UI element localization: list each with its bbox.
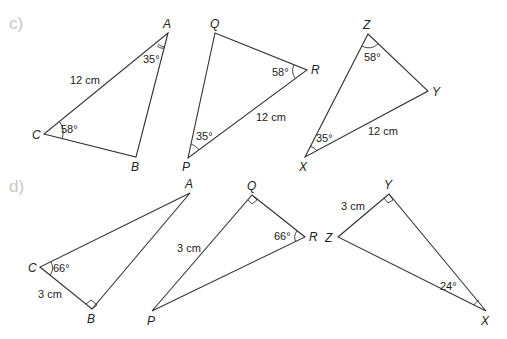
side-label-d-zy: 3 cm: [341, 200, 365, 212]
triangle-c-abc: A B C 35° 58° 12 cm: [32, 17, 171, 174]
vertex-label-d-p: P: [147, 314, 155, 328]
angle-label-c-r: 58°: [272, 66, 289, 78]
vertex-label-d-r: R: [309, 230, 318, 244]
vertex-label-d-y: Y: [384, 178, 393, 192]
angle-label-c-x: 35°: [316, 132, 333, 144]
angle-arc-c-a-2: [158, 44, 164, 47]
angle-label-d-x: 24°: [440, 280, 457, 292]
side-label-d-pq: 3 cm: [177, 242, 201, 254]
vertex-label-d-b: B: [87, 312, 95, 326]
side-label-c-ac: 12 cm: [70, 74, 100, 86]
triangle-d-abc-shape: [40, 193, 190, 309]
vertex-label-c-p: P: [182, 160, 190, 174]
vertex-label-d-x: X: [480, 314, 490, 328]
part-label-d: d): [9, 177, 24, 196]
vertex-label-d-a: A: [184, 177, 193, 191]
side-label-d-cb: 3 cm: [38, 288, 62, 300]
angle-label-c-p: 35°: [196, 130, 213, 142]
angle-label-c-a: 35°: [143, 53, 160, 65]
angle-arc-c-x: [310, 146, 317, 151]
angle-label-d-r: 66°: [274, 230, 291, 242]
vertex-label-c-a: A: [162, 17, 171, 31]
triangle-d-pqr-shape: [152, 195, 305, 311]
angle-label-d-c: 66°: [53, 262, 70, 274]
angle-arc-c-z: [362, 44, 378, 48]
triangle-c-pqr: Q R P 58° 35° 12 cm: [182, 17, 320, 174]
vertex-label-c-q: Q: [210, 17, 219, 31]
vertex-label-d-c: C: [28, 261, 37, 275]
angle-arc-d-r: [295, 231, 297, 242]
vertex-label-c-r: R: [311, 63, 320, 77]
part-label-c: c): [9, 14, 23, 33]
geometry-diagram: c) A B C 35° 58° 12 cm Q R P 58° 35° 12 …: [0, 0, 507, 339]
vertex-label-c-b: B: [131, 160, 139, 174]
side-label-c-pr: 12 cm: [256, 111, 286, 123]
right-angle-mark-d-q: [248, 195, 257, 204]
vertex-label-c-x: X: [298, 160, 308, 174]
angle-label-c-c: 58°: [61, 123, 78, 135]
vertex-label-c-z: Z: [362, 18, 371, 32]
vertex-label-c-y: Y: [432, 85, 441, 99]
angle-label-c-z: 58°: [364, 51, 381, 63]
vertex-label-d-z: Z: [324, 231, 333, 245]
vertex-label-d-q: Q: [247, 179, 256, 193]
right-angle-mark-d-y: [384, 194, 393, 203]
angle-arc-c-r: [293, 65, 295, 78]
angle-arc-c-p: [191, 144, 199, 150]
triangle-d-xyz: Y Z X 24° 3 cm: [324, 178, 490, 328]
triangle-c-xyz: Z Y X 58° 35° 12 cm: [298, 18, 441, 174]
vertex-label-c-c: C: [32, 128, 41, 142]
side-label-c-xy: 12 cm: [368, 125, 398, 137]
